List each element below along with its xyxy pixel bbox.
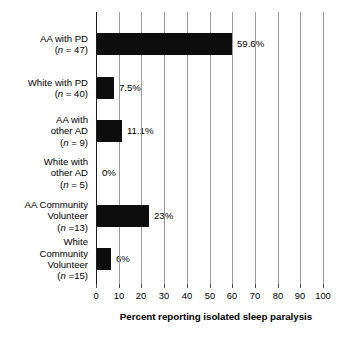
- category-label-line: AA with PD: [0, 33, 88, 44]
- category-sample-size: (n = 40): [0, 88, 88, 99]
- category-sample-size: (n = 9): [0, 137, 88, 148]
- x-tick-label-40: 40: [175, 291, 199, 301]
- category-label-line: other AD: [0, 167, 88, 178]
- plot-area: [96, 12, 323, 284]
- bar: [97, 205, 149, 227]
- x-tick-label-60: 60: [220, 291, 244, 301]
- x-tick-40: [187, 284, 188, 288]
- x-tick-label-10: 10: [107, 291, 131, 301]
- x-tick-100: [323, 284, 324, 288]
- category-label-line: AA Community: [0, 199, 88, 210]
- x-tick-70: [255, 284, 256, 288]
- category-label: AA with PD(n = 47): [0, 33, 88, 56]
- x-tick-label-100: 100: [311, 291, 335, 301]
- bar: [97, 248, 111, 270]
- x-tick-60: [232, 284, 233, 288]
- x-tick-20: [141, 284, 142, 288]
- x-tick-label-90: 90: [288, 291, 312, 301]
- gridline-70: [255, 12, 256, 284]
- bar: [97, 33, 232, 55]
- x-tick-label-70: 70: [243, 291, 267, 301]
- bar: [97, 120, 122, 142]
- x-tick-label-80: 80: [266, 291, 290, 301]
- category-label-line: White: [0, 236, 88, 247]
- category-label-line: other AD: [0, 125, 88, 136]
- category-label-line: White with PD: [0, 77, 88, 88]
- category-label-line: White with: [0, 156, 88, 167]
- x-tick-0: [96, 284, 97, 288]
- bar: [97, 77, 114, 99]
- x-tick-label-20: 20: [129, 291, 153, 301]
- x-tick-90: [300, 284, 301, 288]
- category-label: White with PD(n = 40): [0, 77, 88, 100]
- category-sample-size: (n =15): [0, 270, 88, 281]
- gridline-60: [232, 12, 233, 284]
- x-tick-label-50: 50: [198, 291, 222, 301]
- x-tick-80: [278, 284, 279, 288]
- x-tick-10: [119, 284, 120, 288]
- category-label-line: AA with: [0, 114, 88, 125]
- x-tick-label-0: 0: [84, 291, 108, 301]
- x-tick-30: [164, 284, 165, 288]
- category-label: White withother AD(n = 5): [0, 156, 88, 190]
- category-label-line: Community: [0, 248, 88, 259]
- x-axis-title: Percent reporting isolated sleep paralys…: [96, 311, 336, 322]
- category-sample-size: (n =13): [0, 222, 88, 233]
- category-label: AA withother AD(n = 9): [0, 114, 88, 148]
- gridline-90: [300, 12, 301, 284]
- category-sample-size: (n = 5): [0, 179, 88, 190]
- category-label-line: Volunteer: [0, 210, 88, 221]
- gridline-80: [278, 12, 279, 284]
- category-label: AA CommunityVolunteer(n =13): [0, 199, 88, 233]
- category-label: WhiteCommunityVolunteer(n =15): [0, 236, 88, 282]
- gridline-100: [323, 12, 324, 284]
- bar-chart-figure: AA with PD(n = 47)59.6%White with PD(n =…: [0, 0, 349, 342]
- page-caption-remnant: [0, 331, 349, 342]
- x-tick-label-30: 30: [152, 291, 176, 301]
- x-tick-50: [210, 284, 211, 288]
- category-sample-size: (n = 47): [0, 44, 88, 55]
- category-label-line: Volunteer: [0, 259, 88, 270]
